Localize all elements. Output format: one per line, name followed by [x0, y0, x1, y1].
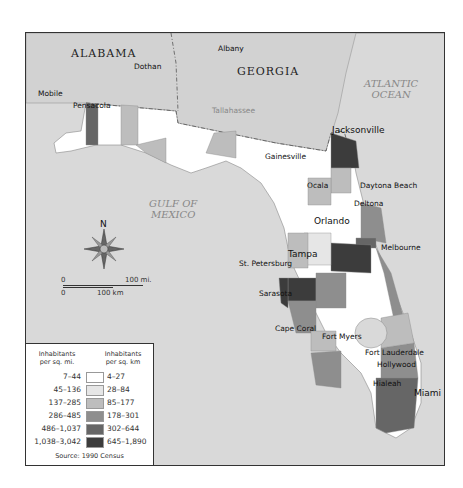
legend-header-mi: Inhabitants per sq. mi.	[32, 350, 82, 366]
legend-header-km-line2: per sq. km	[98, 358, 148, 366]
scale-mi-zero: 0	[61, 276, 65, 284]
legend-swatch	[86, 398, 104, 409]
legend-row: 1,038–3,042 645–1,890	[26, 437, 153, 449]
city-jacksonville: Jacksonville	[332, 125, 385, 135]
legend-km-value: 302–644	[107, 424, 139, 433]
city-dothan: Dothan	[134, 62, 161, 71]
city-daytona-beach: Daytona Beach	[360, 181, 417, 190]
legend-row: 7–44 4–27	[26, 372, 153, 384]
legend-km-value: 178–301	[107, 411, 139, 420]
scale-mi-label: 100 mi.	[125, 276, 152, 284]
legend-row: 137–285 85–177	[26, 398, 153, 410]
legend-mi-value: 137–285	[49, 398, 81, 407]
legend-source: Source: 1990 Census	[26, 452, 153, 460]
city-albany: Albany	[218, 44, 244, 53]
city-hialeah: Hialeah	[373, 379, 401, 388]
city-deltona: Deltona	[354, 199, 383, 208]
compass-rose: N	[84, 229, 124, 273]
legend-km-value: 28–84	[107, 385, 130, 394]
scale-km-label: 100 km	[97, 289, 123, 297]
city-cape-coral: Cape Coral	[275, 324, 316, 333]
atlantic-line1: ATLANTIC	[364, 78, 418, 89]
legend-swatch	[86, 437, 104, 448]
atlantic-line2: OCEAN	[364, 89, 418, 100]
city-orlando: Orlando	[314, 216, 350, 226]
legend-header-mi-line2: per sq. mi.	[32, 358, 82, 366]
legend-row: 486–1,037 302–644	[26, 424, 153, 436]
legend-km-value: 4–27	[107, 372, 125, 381]
city-hollywood: Hollywood	[377, 360, 416, 369]
gulf-line2: MEXICO	[149, 209, 197, 220]
city-sarasota: Sarasota	[259, 289, 292, 298]
map-frame: ALABAMA GEORGIA ATLANTIC OCEAN GULF OF M…	[25, 32, 445, 466]
city-melbourne: Melbourne	[381, 243, 421, 252]
state-label-alabama: ALABAMA	[71, 47, 136, 60]
legend-header-mi-line1: Inhabitants	[32, 350, 82, 358]
compass-north-label: N	[100, 219, 107, 229]
legend: Inhabitants per sq. mi. Inhabitants per …	[25, 343, 154, 466]
city-ocala: Ocala	[307, 181, 328, 190]
city-tampa: Tampa	[288, 249, 318, 259]
legend-mi-value: 1,038–3,042	[34, 437, 81, 446]
city-pensacola: Pensacola	[73, 101, 111, 110]
city-fort-myers: Fort Myers	[322, 332, 362, 341]
city-gainesville: Gainesville	[265, 152, 306, 161]
city-fort-lauderdale: Fort Lauderdale	[365, 348, 424, 357]
legend-swatch	[86, 411, 104, 422]
legend-km-value: 645–1,890	[107, 437, 147, 446]
water-label-atlantic: ATLANTIC OCEAN	[364, 78, 418, 100]
legend-header-km: Inhabitants per sq. km	[98, 350, 148, 366]
state-label-georgia: GEORGIA	[237, 65, 299, 78]
legend-mi-value: 45–136	[53, 385, 81, 394]
legend-row: 45–136 28–84	[26, 385, 153, 397]
legend-km-value: 85–177	[107, 398, 135, 407]
legend-swatch	[86, 385, 104, 396]
legend-swatch	[86, 424, 104, 435]
city-tallahassee: Tallahassee	[212, 106, 255, 115]
city-mobile: Mobile	[38, 89, 63, 98]
compass-icon	[84, 229, 124, 269]
legend-swatch	[86, 372, 104, 383]
scale-km-zero: 0	[61, 289, 65, 297]
city-st-petersburg: St. Petersburg	[239, 259, 292, 268]
legend-header-km-line1: Inhabitants	[98, 350, 148, 358]
water-label-gulf: GULF OF MEXICO	[149, 198, 197, 220]
legend-mi-value: 486–1,037	[41, 424, 81, 433]
legend-row: 286–485 178–301	[26, 411, 153, 423]
city-miami: Miami	[414, 388, 441, 398]
legend-mi-value: 286–485	[49, 411, 81, 420]
legend-mi-value: 7–44	[63, 372, 81, 381]
gulf-line1: GULF OF	[149, 198, 197, 209]
